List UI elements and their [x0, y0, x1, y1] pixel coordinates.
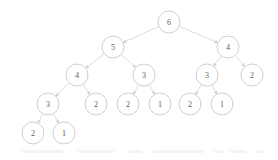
node-label: 3 [46, 100, 50, 109]
tree-node[interactable]: 2 [85, 93, 107, 115]
tree-node[interactable]: 2 [241, 64, 263, 86]
node-label: 3 [205, 71, 209, 80]
tree-edge [56, 83, 69, 96]
node-label: 1 [220, 100, 224, 109]
tree-edge [123, 26, 159, 43]
node-label: 3 [142, 71, 146, 80]
node-label: 1 [62, 129, 66, 138]
background-artifact [152, 150, 204, 153]
tree-node[interactable]: 5 [102, 36, 124, 58]
tree-node[interactable]: 1 [149, 93, 171, 115]
tree-node[interactable]: 2 [22, 122, 44, 144]
background-artifact [78, 150, 114, 153]
tree-node[interactable]: 4 [217, 36, 239, 58]
node-label: 6 [167, 18, 171, 27]
background-artifacts [0, 148, 278, 155]
node-label: 1 [158, 100, 162, 109]
tree-node[interactable]: 1 [211, 93, 233, 115]
recursion-tree: 654433232212121 [0, 0, 278, 160]
tree-edge [83, 84, 90, 95]
tree-node[interactable]: 3 [37, 93, 59, 115]
node-label: 2 [94, 100, 98, 109]
tree-edge [149, 85, 155, 95]
node-label: 2 [126, 100, 130, 109]
tree-node[interactable]: 4 [66, 64, 88, 86]
background-artifact [230, 150, 246, 153]
tree-node[interactable]: 2 [117, 93, 139, 115]
tree-edge [86, 54, 105, 68]
tree-node[interactable]: 2 [179, 93, 201, 115]
tree-node[interactable]: 1 [53, 122, 75, 144]
tree-edge [214, 56, 222, 66]
background-artifact [214, 150, 224, 153]
background-artifact [128, 150, 142, 153]
tree-node[interactable]: 3 [196, 64, 218, 86]
tree-edge [53, 114, 59, 124]
tree-edge [179, 26, 218, 43]
edge-arrowhead [214, 63, 217, 67]
tree-edge [133, 85, 139, 95]
node-label: 2 [31, 129, 35, 138]
diagram-canvas: 654433232212121 [0, 0, 278, 160]
tree-node[interactable]: 3 [133, 64, 155, 86]
tree-node[interactable]: 6 [158, 11, 180, 33]
node-label: 5 [111, 43, 115, 52]
tree-edge [121, 54, 136, 67]
tree-edge [195, 84, 201, 94]
tree-edge [38, 114, 43, 123]
background-artifact [22, 150, 64, 153]
node-label: 4 [75, 71, 79, 80]
background-artifact [256, 150, 264, 153]
node-label: 4 [226, 43, 230, 52]
tree-edge [212, 85, 217, 94]
node-layer: 654433232212121 [22, 11, 263, 144]
node-label: 2 [250, 71, 254, 80]
node-label: 2 [188, 100, 192, 109]
tree-edge [235, 55, 245, 66]
